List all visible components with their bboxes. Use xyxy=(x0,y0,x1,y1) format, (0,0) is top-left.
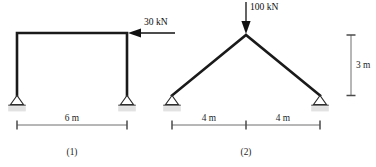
support-2-right-triangle xyxy=(314,96,327,105)
caption-structure-2: (2) xyxy=(241,147,252,158)
support-1-right-plate xyxy=(118,106,136,111)
support-2-left-plate xyxy=(163,106,181,111)
structure-1-group: 30 kN 6 m (1) xyxy=(8,16,175,158)
support-1-right-triangle xyxy=(121,96,134,105)
structure-2-group: 100 kN 4 m 4 m xyxy=(163,1,371,158)
support-1-left-triangle xyxy=(11,96,24,105)
dimension-label-3m: 3 m xyxy=(356,60,371,70)
support-2-left-triangle xyxy=(166,96,179,105)
support-1-left-plate xyxy=(8,106,26,111)
support-2-left xyxy=(163,96,181,112)
load-arrow-100kn-head xyxy=(241,21,250,34)
portal-frame-members xyxy=(17,33,127,96)
dimension-3m xyxy=(347,35,356,96)
engineering-figure: 30 kN 6 m (1) xyxy=(0,0,376,167)
support-1-right xyxy=(118,96,136,112)
load-arrow-30kn xyxy=(128,28,175,37)
dimension-label-4m-right: 4 m xyxy=(276,113,291,123)
figure-canvas: 30 kN 6 m (1) xyxy=(0,0,376,167)
dimension-label-6m: 6 m xyxy=(65,113,80,123)
caption-structure-1: (1) xyxy=(67,147,78,158)
load-label-30kn: 30 kN xyxy=(144,16,168,27)
truss-members xyxy=(172,35,320,96)
load-arrow-30kn-head xyxy=(128,28,141,37)
dimension-4m-4m xyxy=(172,121,320,130)
support-2-right-plate xyxy=(311,106,329,111)
dimension-label-4m-left: 4 m xyxy=(202,113,217,123)
support-1-left xyxy=(8,96,26,112)
support-2-right xyxy=(311,96,329,112)
load-label-100kn: 100 kN xyxy=(250,1,279,12)
